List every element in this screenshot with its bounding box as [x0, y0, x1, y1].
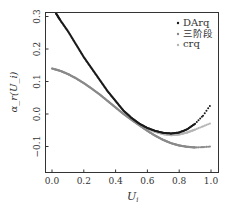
x-axis: 0.00.20.40.60.81.0 [45, 170, 219, 187]
legend-label-darq: DArq [183, 17, 210, 28]
legend-label-crq: crq [183, 38, 200, 49]
legend-marker-three-stage [177, 33, 179, 35]
y-tick-label: 0.2 [32, 42, 42, 56]
y-tick-label: 0.0 [32, 107, 42, 122]
x-tick-label: 0.6 [140, 176, 155, 186]
x-tick-label: 0.0 [45, 176, 60, 186]
x-tick-label: 1.0 [204, 176, 219, 186]
y-tick-label: −0.1 [32, 136, 42, 158]
y-tick-label: 0.1 [32, 74, 42, 88]
legend: DArq 三阶段 crq [177, 17, 213, 49]
x-axis-label: Ui [127, 190, 139, 204]
y-axis-label: α_r(U_i) [8, 71, 20, 112]
x-tick-label: 0.2 [77, 176, 91, 186]
legend-marker-crq [177, 44, 179, 46]
x-tick-label: 0.4 [108, 176, 123, 186]
legend-marker-darq [177, 22, 179, 24]
series-three-stage [51, 67, 211, 148]
chart: 0.00.20.40.60.81.0 −0.10.00.10.20.3 DArq… [0, 0, 232, 213]
y-tick-label: 0.3 [32, 9, 42, 24]
x-tick-label: 0.8 [172, 176, 187, 186]
y-axis: −0.10.00.10.20.3 [32, 9, 49, 157]
